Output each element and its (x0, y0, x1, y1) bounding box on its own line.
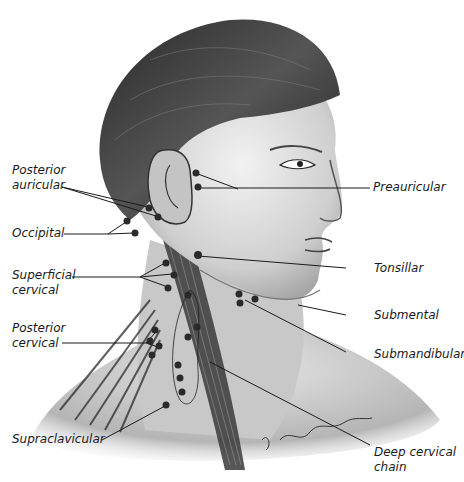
node-superficial-cervical-3 (165, 285, 172, 292)
label-line: Occipital (12, 226, 64, 241)
node-deep-cervical-4 (175, 362, 182, 369)
label-line: cervical (12, 283, 76, 298)
label-supraclavicular: Supraclavicular (12, 432, 105, 447)
label-line: Superficial (12, 268, 76, 283)
label-preauricular: Preauricular (373, 180, 446, 195)
label-deep-cervical-chain: Deep cervical chain (374, 445, 456, 475)
node-occipital-1 (124, 218, 131, 225)
node-posterior-cervical-4 (149, 352, 156, 359)
node-tonsillar (194, 251, 202, 259)
lymph-node-diagram: Posterior auricular Occipital Superficia… (0, 0, 464, 482)
node-occipital-2 (132, 230, 139, 237)
node-submandibular-2 (237, 300, 244, 307)
label-tonsillar: Tonsillar (374, 261, 423, 276)
label-occipital: Occipital (12, 226, 64, 241)
node-supraclavicular (163, 402, 170, 409)
label-line: Submental (374, 308, 439, 323)
label-line: Deep cervical (374, 445, 456, 460)
node-deep-cervical-2 (194, 324, 201, 331)
label-posterior-auricular: Posterior auricular (12, 163, 65, 193)
node-preauricular-1 (193, 170, 200, 177)
label-line: Tonsillar (374, 261, 423, 276)
node-deep-cervical-5 (177, 375, 184, 382)
node-deep-cervical-6 (179, 389, 186, 396)
node-posterior-auricular-2 (155, 214, 162, 221)
label-posterior-cervical: Posterior cervical (12, 321, 65, 351)
node-preauricular-2 (195, 184, 202, 191)
label-line: chain (374, 460, 456, 475)
node-deep-cervical-3 (185, 334, 192, 341)
node-posterior-cervical-1 (152, 327, 159, 334)
head-neck-illustration (0, 0, 464, 482)
label-superficial-cervical: Superficial cervical (12, 268, 76, 298)
label-line: Supraclavicular (12, 432, 105, 447)
node-posterior-cervical-3 (156, 343, 163, 350)
label-line: Posterior (12, 321, 65, 336)
node-posterior-auricular-1 (146, 205, 153, 212)
label-submandibular: Submandibular (374, 347, 464, 362)
label-line: Preauricular (373, 180, 446, 195)
node-submandibular-1 (236, 291, 243, 298)
label-line: cervical (12, 336, 65, 351)
node-posterior-cervical-2 (147, 338, 154, 345)
label-line: Posterior (12, 163, 65, 178)
label-submental: Submental (374, 308, 439, 323)
label-line: Submandibular (374, 347, 464, 362)
node-submental (252, 296, 259, 303)
node-superficial-cervical-1 (163, 260, 170, 267)
label-line: auricular (12, 178, 65, 193)
node-superficial-cervical-2 (171, 272, 178, 279)
